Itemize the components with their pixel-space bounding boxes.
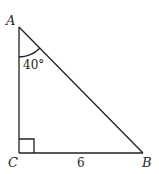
side-ab (19, 27, 143, 153)
vertex-label-c: C (8, 155, 18, 170)
side-label-cb: 6 (77, 156, 85, 170)
angle-label-a: 40° (23, 58, 44, 72)
vertex-label-a: A (5, 13, 15, 28)
angle-arc-a (19, 48, 40, 57)
vertex-label-b: B (141, 155, 152, 170)
triangle-diagram: A C B 40° 6 (0, 0, 159, 174)
right-angle-marker (19, 139, 34, 153)
